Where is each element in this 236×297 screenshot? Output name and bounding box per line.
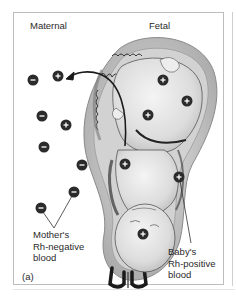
caption-line: Baby's (168, 246, 228, 258)
rh-negative-cell (36, 203, 47, 214)
caption-line: Rh-positive (168, 258, 228, 270)
rh-negative-cell (37, 111, 48, 122)
caption-line: Rh-negative (33, 241, 93, 253)
rh-positive-cell (120, 159, 131, 170)
baby-blood-caption: Baby's Rh-positive blood (168, 246, 228, 281)
rh-negative-cell (39, 142, 50, 153)
rh-negative-cell (69, 187, 80, 198)
caption-line: blood (33, 252, 93, 264)
rh-positive-cell (182, 96, 193, 107)
maternal-label: Maternal (30, 20, 67, 32)
mother-leader-lines (43, 196, 72, 228)
rh-positive-cell (158, 75, 169, 86)
panel-label: (a) (22, 271, 34, 283)
rh-negative-cell (28, 75, 39, 86)
rh-positive-cell (174, 172, 185, 183)
rh-positive-cell (61, 120, 72, 131)
mother-blood-caption: Mother's Rh-negative blood (33, 229, 93, 264)
caption-line: Mother's (33, 229, 93, 241)
fetal-label: Fetal (149, 20, 170, 32)
rh-positive-cell (138, 229, 149, 240)
rh-negative-cell (77, 160, 88, 171)
maternal-blood-cells (28, 71, 88, 214)
rh-positive-cell (143, 110, 154, 121)
caption-line: blood (168, 269, 228, 281)
rh-positive-cell (53, 71, 64, 82)
